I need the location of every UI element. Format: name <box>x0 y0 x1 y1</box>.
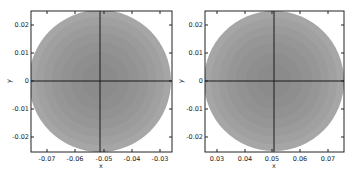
left-y-tick-label: -0.02 <box>12 133 29 141</box>
right-y-axis-label: y <box>177 79 185 83</box>
right-y-tick-label: -0.02 <box>186 133 203 141</box>
left-y-tick-label: 0.01 <box>15 49 29 57</box>
right-y-tick-label: 0.02 <box>189 21 203 29</box>
left-plot: -0.07 -0.06 -0.05 -0.04 -0.03 0.02 0.01 … <box>5 10 172 170</box>
right-x-tick-label: 0.04 <box>238 155 252 163</box>
left-y-axis-label: y <box>5 79 13 83</box>
right-x-tick-label: 0.03 <box>210 155 224 163</box>
left-x-tick-label: -0.04 <box>124 155 141 163</box>
right-y-tick-label: -0.01 <box>186 105 203 113</box>
left-x-axis-label: x <box>99 162 103 170</box>
right-x-tick-label: 0.06 <box>293 155 307 163</box>
left-y-tick-label: 0.02 <box>15 21 29 29</box>
figure: -0.07 -0.06 -0.05 -0.04 -0.03 0.02 0.01 … <box>0 0 352 170</box>
right-x-axis-label: x <box>272 162 276 170</box>
right-x-tick-label: 0.07 <box>321 155 335 163</box>
right-disk <box>204 11 344 152</box>
left-y-tick-label: -0.01 <box>12 105 29 113</box>
right-plot: 0.03 0.04 0.05 0.06 0.07 0.02 0.01 0 -0.… <box>177 11 344 170</box>
right-y-tick-label: 0 <box>199 77 203 85</box>
left-x-tick-label: -0.03 <box>152 155 169 163</box>
left-y-tick-label: 0 <box>25 77 29 85</box>
right-y-tick-label: 0.01 <box>189 49 203 57</box>
left-disk <box>29 10 172 152</box>
left-x-tick-label: -0.06 <box>67 155 84 163</box>
left-x-tick-label: -0.07 <box>39 155 56 163</box>
